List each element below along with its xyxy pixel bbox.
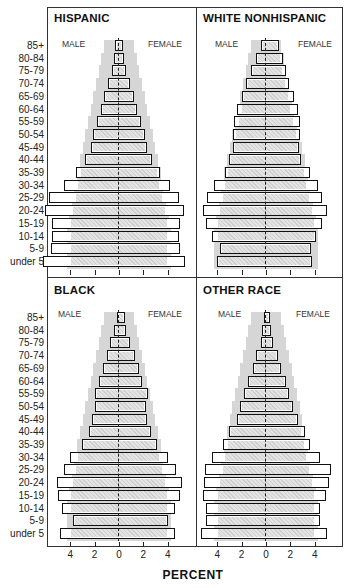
age-group-label: 80-84 bbox=[18, 52, 44, 65]
bar-hatch-fill bbox=[109, 352, 133, 360]
female-label: FEMALE bbox=[148, 39, 182, 49]
female-label: FEMALE bbox=[296, 309, 330, 319]
bar-hatch-fill bbox=[258, 54, 279, 62]
axis-tick bbox=[95, 270, 96, 275]
bar-hatch-fill bbox=[242, 402, 290, 410]
age-group-label: 75-79 bbox=[18, 336, 44, 349]
axis-tick bbox=[70, 542, 71, 547]
axis-tick bbox=[315, 270, 316, 275]
bar-hatch-fill bbox=[246, 390, 287, 398]
axis-tick-label: 4 bbox=[165, 549, 171, 560]
age-group-label: 15-19 bbox=[18, 217, 44, 230]
age-group-label: 85+ bbox=[27, 311, 44, 324]
age-group-label: 25-29 bbox=[18, 191, 44, 204]
bar-hatch-fill bbox=[94, 415, 145, 423]
age-group-label: 50-54 bbox=[18, 400, 44, 413]
age-group-label: 65-69 bbox=[18, 90, 44, 103]
age-group-label: 65-69 bbox=[18, 362, 44, 375]
zero-line bbox=[118, 310, 119, 541]
x-axis-title: PERCENT bbox=[0, 568, 346, 582]
age-group-label: 55-59 bbox=[18, 115, 44, 128]
age-group-label: 60-64 bbox=[18, 103, 44, 116]
age-group-label: 45-49 bbox=[18, 141, 44, 154]
age-group-label: 70-74 bbox=[18, 77, 44, 90]
bar-hatch-fill bbox=[231, 428, 301, 436]
axis-tick bbox=[217, 270, 218, 275]
panel-title: WHITE NONHISPANIC bbox=[203, 12, 326, 24]
bar-hatch-fill bbox=[255, 364, 279, 372]
zero-line bbox=[265, 310, 266, 541]
axis-tick-label: 2 bbox=[288, 549, 294, 560]
bar-hatch-fill bbox=[239, 415, 296, 423]
age-group-label: 40-44 bbox=[18, 153, 44, 166]
age-group-label: 20-24 bbox=[18, 476, 44, 489]
bar-hatch-fill bbox=[97, 402, 144, 410]
bar-hatch-fill bbox=[75, 517, 166, 525]
axis-tick bbox=[315, 542, 316, 547]
axis-tick bbox=[242, 270, 243, 275]
axis-tick bbox=[70, 270, 71, 275]
axis-tick bbox=[168, 542, 169, 547]
bar-hatch-fill bbox=[101, 377, 140, 385]
zero-line bbox=[265, 38, 266, 269]
axis-tick bbox=[290, 542, 291, 547]
axis-tick bbox=[143, 542, 144, 547]
male-label: MALE bbox=[218, 309, 241, 319]
male-label: MALE bbox=[215, 39, 238, 49]
axis-tick-label: 4 bbox=[312, 549, 318, 560]
axis-tick bbox=[119, 542, 120, 547]
age-group-label: 10-14 bbox=[18, 502, 44, 515]
age-group-label: 10-14 bbox=[18, 230, 44, 243]
age-group-label: 70-74 bbox=[18, 349, 44, 362]
female-label: FEMALE bbox=[298, 39, 332, 49]
age-group-label: 5-9 bbox=[30, 514, 44, 527]
axis-tick bbox=[119, 270, 120, 275]
age-group-label: 35-39 bbox=[18, 166, 44, 179]
panel-title: BLACK bbox=[54, 284, 95, 296]
bar-hatch-fill bbox=[97, 390, 146, 398]
axis-tick-label: 0 bbox=[263, 549, 269, 560]
female-label: FEMALE bbox=[148, 309, 182, 319]
zero-line bbox=[118, 38, 119, 269]
panel-title: HISPANIC bbox=[54, 12, 110, 24]
age-group-label: 60-64 bbox=[18, 375, 44, 388]
bar-hatch-fill bbox=[112, 339, 128, 347]
age-group-label: 55-59 bbox=[18, 387, 44, 400]
bar-hatch-fill bbox=[250, 377, 284, 385]
axis-tick bbox=[290, 270, 291, 275]
age-group-label: 50-54 bbox=[18, 128, 44, 141]
axis-tick bbox=[266, 542, 267, 547]
male-label: MALE bbox=[58, 309, 81, 319]
age-group-label: 30-34 bbox=[18, 179, 44, 192]
age-group-label: 85+ bbox=[27, 39, 44, 52]
axis-tick-label: 2 bbox=[239, 549, 245, 560]
axis-tick bbox=[143, 270, 144, 275]
age-group-label: 25-29 bbox=[18, 463, 44, 476]
age-group-label: 30-34 bbox=[18, 451, 44, 464]
axis-tick-label: 2 bbox=[141, 549, 147, 560]
axis-tick bbox=[95, 542, 96, 547]
axis-tick-label: 4 bbox=[214, 549, 220, 560]
axis-tick bbox=[242, 542, 243, 547]
bar-hatch-fill bbox=[248, 80, 285, 88]
age-group-label: under 5 bbox=[10, 255, 44, 268]
bar-hatch-fill bbox=[91, 428, 149, 436]
panel-divider-horizontal bbox=[47, 277, 343, 278]
age-group-label: 40-44 bbox=[18, 425, 44, 438]
male-label: MALE bbox=[62, 39, 85, 49]
age-group-label: 75-79 bbox=[18, 64, 44, 77]
age-group-label: 15-19 bbox=[18, 489, 44, 502]
age-group-label: 80-84 bbox=[18, 324, 44, 337]
panel-title: OTHER RACE bbox=[203, 284, 281, 296]
age-group-label: 45-49 bbox=[18, 413, 44, 426]
bar-hatch-fill bbox=[105, 364, 136, 372]
axis-tick bbox=[217, 542, 218, 547]
axis-tick bbox=[266, 270, 267, 275]
age-group-label: under 5 bbox=[10, 527, 44, 540]
age-group-label: 5-9 bbox=[30, 242, 44, 255]
age-group-label: 35-39 bbox=[18, 438, 44, 451]
axis-tick-label: 2 bbox=[92, 549, 98, 560]
axis-tick-label: 0 bbox=[116, 549, 122, 560]
bar-hatch-fill bbox=[258, 352, 276, 360]
axis-tick bbox=[168, 270, 169, 275]
